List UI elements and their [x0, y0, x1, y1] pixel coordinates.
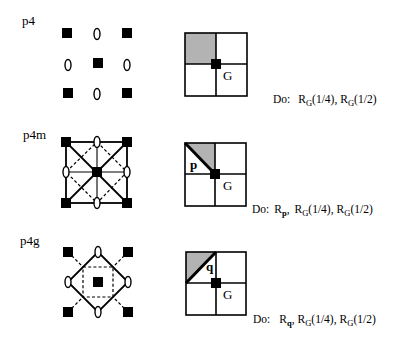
fourfold-center-icon: [61, 198, 71, 208]
fourfold-center-icon: [122, 88, 132, 98]
operations-text-p4g: Do:Rq,RG(1/4),RG(1/2): [253, 313, 376, 328]
fourfold-center-icon: [61, 137, 71, 147]
twofold-center-icon: [124, 167, 130, 178]
fourfold-center-icon: [122, 137, 132, 147]
row-p4m: p4m p G Do:Rp,: [23, 127, 373, 218]
twofold-center-icon: [125, 277, 131, 288]
twofold-center-icon: [94, 198, 100, 209]
lattice-pattern-p4: [62, 28, 132, 100]
twofold-center-icon: [94, 29, 100, 40]
fourfold-center-icon: [63, 88, 73, 98]
rotation-center-icon: [210, 169, 220, 179]
fourfold-center-icon: [123, 307, 133, 317]
row-p4g: p4g q G Do:Rq,: [20, 233, 376, 328]
fourfold-center-icon: [92, 167, 102, 177]
twofold-center-icon: [95, 307, 101, 318]
fourfold-center-icon: [122, 198, 132, 208]
operations-text-p4m: Do:Rp,RG(1/4),RG(1/2): [252, 203, 373, 218]
fundamental-region-grid-p4g: q G: [186, 252, 246, 315]
row-p4: p4 G Do:RG(1/4),RG(1/2): [22, 13, 377, 108]
fourfold-center-icon: [63, 247, 73, 257]
fundamental-region-grid-p4m: p G: [185, 143, 246, 206]
fourfold-center-icon: [93, 58, 103, 68]
group-label-p4g: p4g: [20, 233, 40, 248]
center-label-g: G: [223, 68, 232, 83]
rotation-center-icon: [211, 278, 221, 288]
lattice-pattern-p4g: [63, 247, 133, 318]
operations-text-p4: Do:RG(1/4),RG(1/2): [273, 93, 377, 108]
fourfold-center-icon: [63, 307, 73, 317]
group-label-p4: p4: [22, 13, 36, 28]
rotation-center-icon: [211, 59, 221, 69]
axis-label-p: p: [190, 157, 197, 172]
fourfold-center-icon: [93, 277, 103, 287]
wallpaper-group-diagram: p4 G Do:RG(1/4),RG(1/2) p4m: [0, 0, 408, 344]
fundamental-region-grid-p4: G: [185, 33, 247, 96]
group-label-p4m: p4m: [23, 127, 46, 142]
twofold-center-icon: [65, 60, 71, 71]
twofold-center-icon: [65, 277, 71, 288]
center-label-g: G: [223, 287, 232, 302]
lattice-pattern-p4m: [61, 137, 132, 209]
center-label-g: G: [223, 178, 232, 193]
twofold-center-icon: [95, 247, 101, 258]
axis-label-q: q: [206, 259, 214, 274]
fourfold-center-icon: [123, 247, 133, 257]
twofold-center-icon: [94, 89, 100, 100]
twofold-center-icon: [94, 137, 100, 148]
fourfold-center-icon: [62, 28, 72, 38]
twofold-center-icon: [124, 60, 130, 71]
fourfold-center-icon: [122, 28, 132, 38]
twofold-center-icon: [63, 167, 69, 178]
